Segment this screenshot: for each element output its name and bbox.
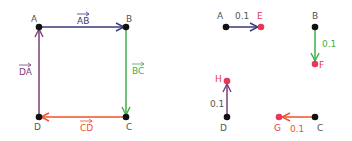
svg-text:CD: CD [80,123,93,133]
label-b: B [126,14,132,24]
label-a: A [31,14,38,24]
point-d-right [224,114,231,121]
vector-bc-label: BC [132,62,144,76]
point-b [123,24,130,31]
label-e: E [257,11,263,21]
label-a-right: A [217,11,224,21]
point-c [123,114,130,121]
label-h: H [215,74,222,84]
label-g: G [274,123,281,133]
vector-cd-label: CD [80,119,93,133]
label-d: D [34,122,41,132]
vector-da-label: DA [19,63,33,77]
label-c: C [126,122,132,132]
svg-text:DA: DA [19,67,33,77]
scale-label-dh: 0.1 [210,99,224,109]
vector-diagram: A B C D AB BC CD DA A E 0.1 [0,0,352,141]
point-a-right [223,24,230,31]
vector-ab-label: AB [77,12,89,26]
point-g [276,114,283,121]
svg-text:AB: AB [77,16,89,26]
svg-text:BC: BC [132,66,144,76]
label-f: F [319,60,324,70]
right-diagram: A E 0.1 B F 0.1 D H 0.1 C G 0.1 [210,11,336,134]
point-a [36,24,43,31]
point-d [36,114,43,121]
point-f [312,61,319,68]
label-d-right: D [220,123,227,133]
scale-label-ae: 0.1 [235,11,249,21]
label-b-right: B [312,11,318,21]
point-b-right [312,24,319,31]
scale-label-bf: 0.1 [322,39,336,49]
point-e [258,24,265,31]
point-c-right [312,114,319,121]
left-diagram: A B C D AB BC CD DA [19,12,144,133]
scale-label-cg: 0.1 [290,124,304,134]
label-c-right: C [317,123,323,133]
point-h [224,78,231,85]
